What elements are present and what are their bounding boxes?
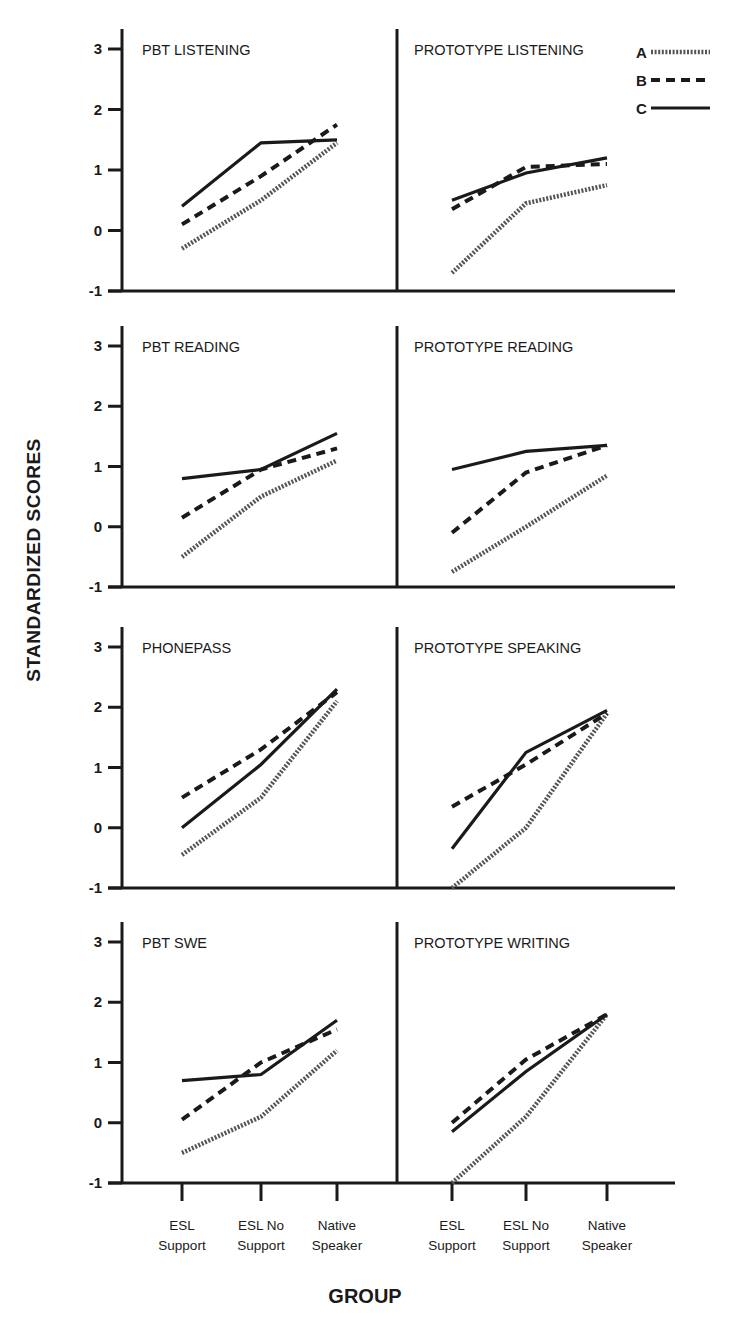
x-tick-label: ESL	[169, 1218, 195, 1233]
chart-canvas: -10123-10123-10123-10123ESLSupportESL No…	[0, 0, 730, 1332]
series-line-c	[452, 710, 607, 849]
series-line-c	[182, 689, 337, 828]
panel-title: PHONEPASS	[142, 640, 231, 656]
series-line-a	[452, 1014, 607, 1183]
y-tick-label: 1	[94, 759, 102, 776]
y-tick-label: 0	[94, 222, 102, 239]
y-tick-label: 3	[94, 638, 102, 655]
y-tick-label: -1	[89, 879, 102, 896]
x-tick-label: Support	[428, 1238, 476, 1253]
x-tick-label: Support	[158, 1238, 206, 1253]
y-tick-label: 2	[94, 101, 102, 118]
y-tick-label: -1	[89, 1174, 102, 1191]
y-tick-label: -1	[89, 578, 102, 595]
y-tick-label: 2	[94, 698, 102, 715]
y-tick-label: 0	[94, 819, 102, 836]
series-line-a	[182, 143, 337, 249]
x-tick-label: ESL No	[503, 1218, 549, 1233]
series-line-a	[452, 713, 607, 888]
series-line-b	[182, 448, 337, 517]
x-tick-label: Speaker	[582, 1238, 633, 1253]
series-line-a	[452, 185, 607, 273]
series-line-c	[182, 140, 337, 207]
panel-title: PROTOTYPE LISTENING	[414, 42, 584, 58]
panel-title: PBT LISTENING	[142, 42, 251, 58]
x-tick-label: Native	[588, 1218, 626, 1233]
series-line-b	[452, 713, 607, 806]
figure: -10123-10123-10123-10123ESLSupportESL No…	[0, 0, 730, 1332]
y-tick-label: 1	[94, 161, 102, 178]
y-tick-label: 0	[94, 1114, 102, 1131]
y-tick-label: 2	[94, 397, 102, 414]
y-tick-label: 2	[94, 993, 102, 1010]
series-line-c	[452, 1014, 607, 1132]
legend-label: C	[636, 100, 647, 117]
panel-title: PROTOTYPE SPEAKING	[414, 640, 581, 656]
y-tick-label: -1	[89, 282, 102, 299]
series-line-a	[182, 701, 337, 855]
panel-title: PROTOTYPE WRITING	[414, 935, 570, 951]
x-tick-label: Speaker	[312, 1238, 363, 1253]
y-tick-label: 1	[94, 458, 102, 475]
x-tick-label: Support	[237, 1238, 285, 1253]
legend-label: A	[636, 44, 647, 61]
y-axis-label-text: STANDARDIZED SCORES	[23, 438, 45, 682]
y-tick-label: 3	[94, 40, 102, 57]
series-line-c	[452, 445, 607, 469]
legend-label: B	[636, 72, 647, 89]
y-tick-label: 3	[94, 337, 102, 354]
series-line-a	[452, 476, 607, 572]
panel-title: PBT READING	[142, 339, 240, 355]
panel-title: PROTOTYPE READING	[414, 339, 573, 355]
x-tick-label: ESL	[439, 1218, 465, 1233]
x-tick-label: Support	[502, 1238, 550, 1253]
y-tick-label: 1	[94, 1054, 102, 1071]
series-line-b	[182, 692, 337, 797]
x-tick-label: ESL No	[238, 1218, 284, 1233]
y-tick-label: 0	[94, 518, 102, 535]
x-axis-label: GROUP	[0, 1285, 730, 1308]
x-tick-label: Native	[318, 1218, 356, 1233]
panel-title: PBT SWE	[142, 935, 207, 951]
y-tick-label: 3	[94, 933, 102, 950]
